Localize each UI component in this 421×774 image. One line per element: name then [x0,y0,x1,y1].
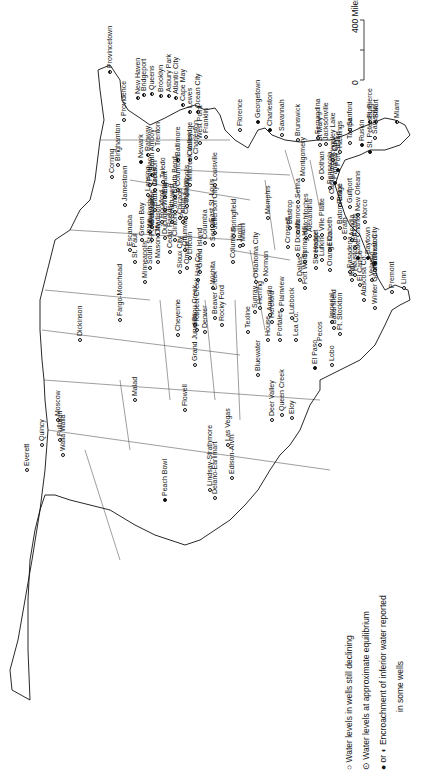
place-label: Norco [361,199,368,218]
place-label: Walla Walla [59,415,66,451]
well-marker-icon [204,135,208,139]
place-label: Lewes [186,88,193,108]
well-marker-icon [268,128,272,132]
legend-equilibrium: ⊙ Water levels at approximate equilibriu… [362,611,371,770]
well-marker-icon [188,256,192,260]
place-label: Linn [400,271,407,284]
place-label: Premont [388,262,395,288]
well-marker-icon [280,133,284,137]
well-marker-icon [163,498,167,502]
place-label: Ville Platte [318,198,325,231]
well-marker-icon [348,141,352,145]
place-label: Ft. Stockton [336,293,343,330]
place-label: Hodge [312,231,319,252]
well-marker-icon [156,148,160,152]
well-marker-icon [318,343,322,347]
well-marker-icon [318,143,322,147]
place-label: Sioux City [176,236,183,268]
place-label: Queens [148,65,155,90]
place-label: Columbus [174,154,181,186]
place-label: Baytown [364,227,371,254]
well-marker-icon [194,156,198,160]
well-marker-icon [238,128,242,132]
well-marker-icon [213,183,217,187]
well-marker-icon [373,136,377,140]
place-label: Trenton [154,122,161,146]
well-marker-icon [232,234,236,238]
well-marker-icon [178,270,182,274]
place-label: Peoria [179,198,186,218]
place-label: Eloy [288,400,295,414]
place-label: Katy [348,262,355,276]
place-label: Portales [276,310,283,336]
scale-start-label: 0 [351,80,360,85]
well-marker-icon [266,338,270,342]
well-marker-icon [133,260,137,264]
well-marker-icon [122,118,126,122]
place-label: Oklahoma City [252,232,259,278]
place-label: Ruskin [358,120,365,141]
well-marker-icon [176,333,180,337]
place-label: Lufkin [318,237,325,256]
well-marker-icon [270,418,274,422]
well-marker-icon [183,408,187,412]
place-label: Malad [131,377,138,396]
place-label: St Mary's [316,112,323,141]
well-marker-icon [402,286,406,290]
well-marker-icon [148,266,152,270]
legend-declining: ○ Water levels in wells still declining [345,635,354,770]
well-marker-icon [330,196,334,200]
open-circle-icon: ○ [344,763,354,771]
well-marker-icon [390,290,394,294]
us-map-outline [0,0,421,774]
well-marker-icon [314,266,318,270]
place-label: Edison-Arvin [228,434,235,474]
place-label: Springfield [230,199,237,232]
place-label: Brooklyn [157,65,164,92]
place-label: Jamestown [121,166,128,201]
place-label: Mason City [154,223,161,258]
well-marker-icon [301,178,305,182]
well-marker-icon [220,323,224,327]
place-label: Provincetown [106,26,113,68]
well-marker-icon [110,175,114,179]
place-label: Memphis [264,186,271,214]
place-label: Lansing [144,166,151,191]
well-marker-icon [253,310,257,314]
well-marker-icon [25,468,29,472]
place-label: Brunswick [294,104,301,136]
place-label: Cape May [179,69,186,101]
well-marker-icon [61,453,65,457]
well-marker-icon [264,278,268,282]
place-label: Corning [108,148,115,173]
well-marker-icon [181,103,185,107]
well-marker-icon [123,203,127,207]
well-marker-icon [174,96,178,100]
place-label: Cedar Rapids [166,205,173,248]
well-marker-icon [350,278,354,282]
well-marker-icon [290,416,294,420]
well-marker-icon [278,338,282,342]
well-marker-icon [108,70,112,74]
well-marker-icon [136,96,140,100]
well-marker-icon [139,160,143,164]
place-label: Sunray [251,286,258,308]
place-label: Orange Co. [326,230,333,266]
well-marker-icon [330,363,334,367]
place-label: Charleston [266,92,273,126]
well-marker-icon [230,476,234,480]
well-marker-icon [188,183,192,187]
well-marker-icon [211,243,215,247]
well-marker-icon [363,220,367,224]
us-outline [10,65,410,700]
well-marker-icon [313,366,317,370]
place-label: Deer Valley [268,380,275,416]
well-marker-icon [143,280,147,284]
place-label: Plainview [278,276,285,306]
well-marker-icon [142,93,146,97]
place-label: Amarillo [266,286,273,311]
place-label: Grand Junction [191,314,198,361]
place-label: Fargo-Moorhead [116,264,123,316]
well-marker-icon [328,268,332,272]
place-label: Millcreek Valley [186,133,193,181]
